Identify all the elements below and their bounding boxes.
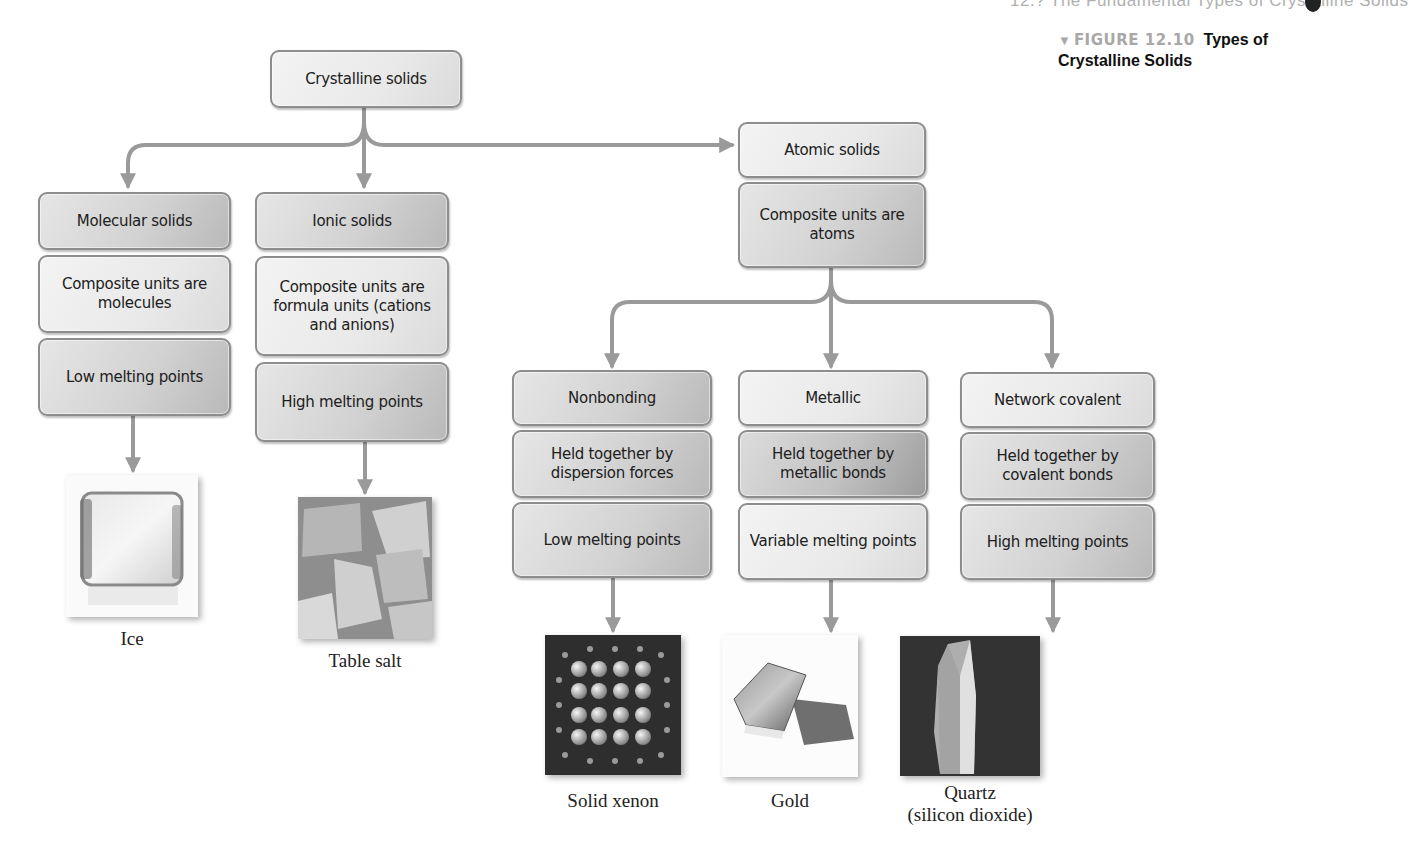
node-label: Crystalline solids [305, 70, 427, 89]
node-label: Nonbonding [568, 389, 656, 408]
node-nonbonding: Nonbonding [512, 370, 712, 426]
node-molecular-units: Composite units are molecules [38, 255, 231, 333]
gold-bars-icon [722, 635, 858, 777]
caption-quartz-name: Quartz [880, 782, 1060, 804]
caption-solid-xenon: Solid xenon [530, 790, 696, 812]
node-network-melting: High melting points [960, 504, 1155, 580]
quartz-crystal-photo [900, 636, 1040, 776]
node-metallic: Metallic [738, 370, 928, 426]
node-label: Composite units are molecules [46, 275, 223, 313]
node-label: Held together by metallic bonds [746, 445, 920, 483]
node-label: High melting points [987, 533, 1128, 552]
node-label: Composite units are formula units (catio… [263, 278, 441, 335]
node-nonbonding-melting: Low melting points [512, 502, 712, 578]
ice-cube-icon [66, 475, 198, 617]
node-ionic-solids: Ionic solids [255, 192, 449, 250]
node-nonbonding-bond: Held together by dispersion forces [512, 430, 712, 498]
caption-quartz-formula: (silicon dioxide) [880, 804, 1060, 826]
node-label: Variable melting points [750, 532, 917, 551]
node-crystalline-solids: Crystalline solids [270, 50, 462, 108]
ice-cube-photo [66, 475, 198, 617]
solid-xenon-lattice [545, 635, 681, 775]
caption-table-salt: Table salt [290, 650, 440, 672]
table-salt-photo [298, 497, 432, 639]
node-atomic-solids: Atomic solids [738, 122, 926, 178]
node-label: Molecular solids [77, 212, 192, 231]
node-molecular-solids: Molecular solids [38, 192, 231, 250]
node-ionic-melting: High melting points [255, 362, 449, 442]
salt-crystals-icon [298, 497, 432, 639]
node-metallic-melting: Variable melting points [738, 503, 928, 580]
node-label: High melting points [281, 393, 422, 412]
quartz-crystal-icon [900, 636, 1040, 776]
node-label: Held together by covalent bonds [968, 447, 1147, 485]
caption-quartz: Quartz (silicon dioxide) [880, 782, 1060, 826]
node-label: Atomic solids [784, 141, 880, 160]
node-metallic-bond: Held together by metallic bonds [738, 430, 928, 498]
xenon-lattice-icon [545, 635, 681, 775]
node-atomic-units: Composite units are atoms [738, 182, 926, 268]
node-network-covalent: Network covalent [960, 372, 1155, 428]
node-label: Low melting points [544, 531, 681, 550]
node-label: Metallic [805, 389, 861, 408]
node-label: Composite units are atoms [746, 206, 918, 244]
node-label: Network covalent [994, 391, 1121, 410]
triangle-down-icon: ▼ [1058, 33, 1071, 48]
gold-bars-photo [722, 635, 858, 777]
node-network-bond: Held together by covalent bonds [960, 432, 1155, 500]
caption-gold: Gold [722, 790, 858, 812]
caption-ice: Ice [66, 628, 198, 650]
node-molecular-melting: Low melting points [38, 338, 231, 416]
node-label: Low melting points [66, 368, 203, 387]
node-ionic-units: Composite units are formula units (catio… [255, 256, 449, 356]
running-head: 12.? The Fundamental Types of Crystallin… [1010, 0, 1409, 11]
figure-caption: ▼FIGURE 12.10 Types of Crystalline Solid… [1058, 30, 1318, 71]
node-label: Held together by dispersion forces [520, 445, 704, 483]
node-label: Ionic solids [312, 212, 391, 231]
figure-number: FIGURE 12.10 [1074, 31, 1195, 49]
